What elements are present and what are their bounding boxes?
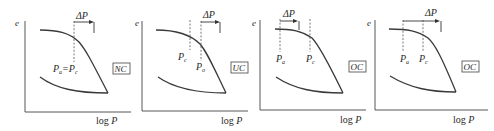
- panel-uc: e ΔP Pc Po UC log P: [135, 9, 248, 126]
- panel-oc-2: e ΔP Pa Pc OC log P: [367, 7, 488, 125]
- po-label: Po: [195, 61, 205, 73]
- pa-label: Pa: [399, 53, 409, 65]
- x-axis-label: log P: [221, 115, 242, 126]
- state-label-nc: NC: [114, 64, 128, 74]
- x-axis-label: log P: [453, 114, 474, 125]
- unloading-curve: [390, 76, 456, 92]
- pc-label: Pc: [305, 53, 315, 65]
- unloading-curve: [40, 77, 108, 93]
- y-axis-label: e: [15, 18, 19, 28]
- panel-nc: e ΔP Pa=Pc NC log P: [15, 10, 131, 126]
- state-label-oc: OC: [464, 62, 477, 72]
- panel-oc-1: e ΔP Pa Pc OC log P: [252, 8, 366, 125]
- delta-p-label: ΔP: [202, 9, 215, 20]
- arrowhead-icon: [293, 19, 298, 23]
- delta-p-label: ΔP: [424, 7, 437, 18]
- state-label-oc: OC: [351, 62, 364, 72]
- y-axis-label: e: [252, 18, 256, 28]
- pc-label: Pc: [418, 53, 428, 65]
- state-label-uc: UC: [233, 63, 246, 73]
- delta-p-label: ΔP: [282, 8, 295, 19]
- pa-label: Pa: [275, 53, 285, 65]
- delta-p-label: ΔP: [75, 10, 88, 21]
- pc-label: Pc: [177, 51, 187, 63]
- arrowhead-icon: [215, 20, 220, 24]
- loading-curve: [156, 30, 226, 93]
- arrowhead-icon: [435, 19, 440, 23]
- y-axis-label: e: [367, 18, 371, 28]
- x-axis-label: log P: [340, 114, 361, 125]
- pa-equals-pc-label: Pa=Pc: [52, 63, 78, 75]
- consolidation-state-diagram: e ΔP Pa=Pc NC log P e ΔP Pc Po UC log P …: [0, 0, 494, 131]
- arrowhead-icon: [89, 20, 94, 24]
- y-axis-label: e: [135, 18, 139, 28]
- x-axis-label: log P: [96, 115, 117, 126]
- unloading-curve: [276, 77, 343, 93]
- unloading-curve: [158, 77, 226, 93]
